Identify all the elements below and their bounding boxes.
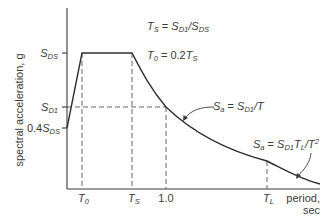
y-axis-label: spectral acceleration, g xyxy=(13,53,25,166)
x-label-one: 1.0 xyxy=(158,192,173,204)
equation-sa-velocity: Sa = SD1/T xyxy=(213,100,265,114)
x-label-t0: T0 xyxy=(78,192,90,206)
leader-sa1 xyxy=(185,107,214,118)
x-label-tl: TL xyxy=(263,192,274,206)
equation-ts: TS = SD1/SDS xyxy=(147,20,209,34)
leader-sa2 xyxy=(299,153,311,175)
y-label-sds: SDS xyxy=(40,47,58,61)
equation-t0: T0 = 0.2TS xyxy=(147,49,197,63)
x-axis-label-line1: period, xyxy=(286,192,320,204)
equation-sa-displacement: Sa = SD1TL/T2 xyxy=(253,137,320,152)
response-spectrum-diagram: spectral acceleration, g SDS SD1 0.4SDS … xyxy=(0,0,335,224)
spectrum-curve xyxy=(67,53,320,184)
x-label-ts: TS xyxy=(128,192,140,206)
y-label-04sds: 0.4SDS xyxy=(27,122,60,136)
x-axis-label-line2: sec xyxy=(303,204,321,216)
y-label-sd1: SD1 xyxy=(41,101,58,115)
